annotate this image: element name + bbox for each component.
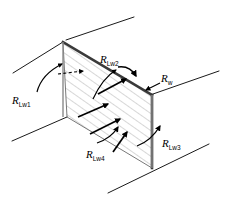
duct-line-upper-right (66, 17, 134, 40)
r-lw1-label: RLw1 (11, 94, 31, 108)
r-w-annotation: Rw (146, 72, 173, 90)
r-lw3-label: RLw3 (161, 137, 181, 151)
r-w-leader-line (146, 83, 160, 90)
r-w-label: Rw (160, 72, 173, 86)
r-lw2-label: RLw2 (99, 53, 119, 67)
r-lw2-hook-curve (118, 67, 136, 76)
r-lw1-leader-curve (37, 64, 62, 92)
duct-line-lower-right (108, 144, 209, 193)
duct-resistance-diagram: RLw1 RLw2 Rw RLw3 (0, 0, 225, 205)
duct-line-lower-left (12, 117, 67, 141)
figure-container: RLw1 RLw2 Rw RLw3 (0, 0, 225, 205)
r-lw4-label: RLw4 (85, 148, 105, 162)
